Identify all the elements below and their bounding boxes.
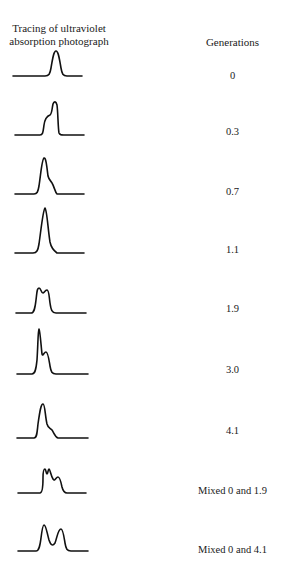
trace-mixed-0-4.1 [18,525,88,551]
label-gen-1.9: 1.9 [175,303,289,315]
trace-mixed-0-1.9 [18,469,86,493]
trace-gen-1.9 [16,288,86,313]
label-gen-4.1: 4.1 [175,425,289,437]
label-gen-0.3: 0.3 [175,126,289,138]
trace-gen-0.3 [15,102,84,135]
trace-gen-4.1 [17,404,88,438]
label-mixed-0-1.9: Mixed 0 and 1.9 [175,485,289,497]
label-mixed-0-4.1: Mixed 0 and 4.1 [175,544,289,556]
trace-gen-3.0 [17,329,88,374]
label-gen-1.1: 1.1 [175,244,289,256]
trace-gen-0.7 [15,158,84,194]
trace-gen-1.1 [15,208,84,253]
label-gen-0: 0 [175,70,289,82]
trace-gen-0 [13,51,82,76]
label-gen-0.7: 0.7 [175,186,289,198]
label-gen-3.0: 3.0 [175,364,289,376]
